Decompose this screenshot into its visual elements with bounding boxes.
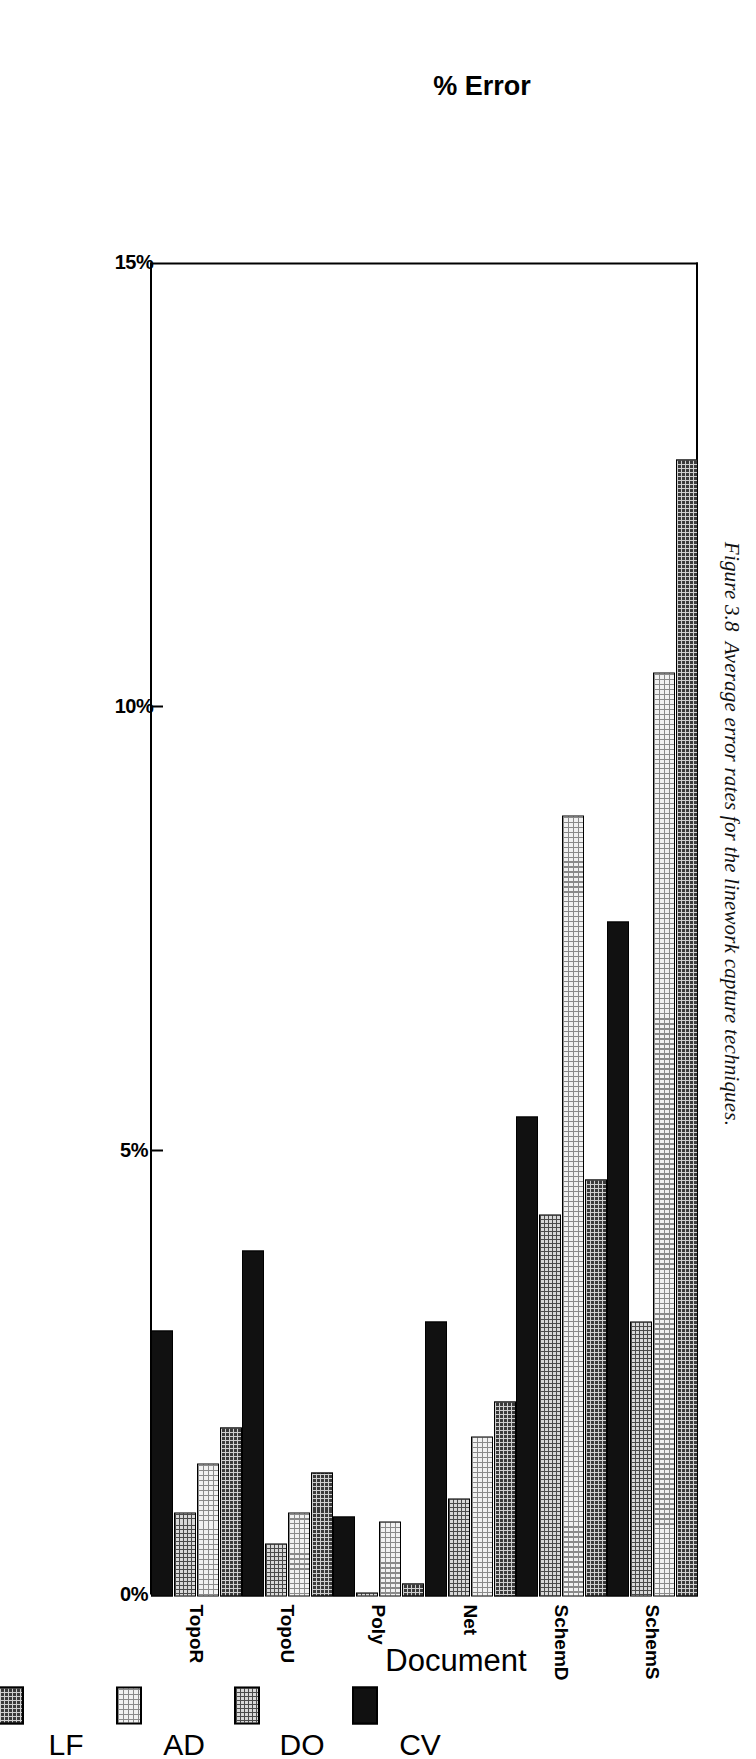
legend-swatch-CV (352, 1686, 378, 1724)
category-label-SchemD: SchemD (550, 1604, 572, 1680)
bar-TopoR-LF (220, 1427, 242, 1596)
chart-legend: CVDOADLF (18, 1686, 378, 1726)
bar-TopoU-AD (288, 1512, 310, 1596)
bar-Net-AD (471, 1436, 493, 1596)
tick-label-15%: 15% (115, 251, 154, 274)
category-label-SchemS: SchemS (641, 1604, 663, 1679)
bar-Net-CV (425, 1321, 447, 1596)
bar-SchemD-CV (516, 1116, 538, 1596)
caption-host: Figure 3.8Average error rates for the li… (706, 0, 756, 1667)
tick-label-10%: 10% (115, 695, 154, 718)
legend-swatch-AD (116, 1686, 142, 1724)
bar-SchemS-LF (676, 459, 698, 1596)
bar-SchemD-AD (562, 815, 584, 1596)
bar-group (332, 264, 424, 1594)
bar-Poly-LF (402, 1583, 424, 1596)
bar-TopoR-CV (151, 1330, 173, 1596)
bar-TopoR-AD (197, 1463, 219, 1596)
legend-label-LF: LF (48, 1727, 83, 1759)
bar-group (150, 264, 242, 1594)
legend-label-CV: CV (399, 1727, 441, 1759)
legend-item-AD: AD (82, 1686, 142, 1726)
caption-text: Average error rates for the linework cap… (720, 641, 744, 1125)
figure-caption: Figure 3.8Average error rates for the li… (719, 541, 744, 1125)
legend-label-AD: AD (163, 1727, 205, 1759)
legend-label-DO: DO (280, 1727, 325, 1759)
legend-item-DO: DO (200, 1686, 260, 1726)
bars-layer (152, 264, 698, 1594)
bar-SchemS-CV (607, 921, 629, 1596)
bar-Poly-AD (379, 1521, 401, 1596)
caption-number: Figure 3.8 (720, 541, 744, 631)
bar-Poly-CV (333, 1516, 355, 1596)
legend-item-CV: CV (318, 1686, 378, 1726)
bar-TopoU-CV (242, 1250, 264, 1596)
tick-label-0%: 0% (120, 1583, 148, 1606)
legend-item-LF: LF (0, 1686, 24, 1726)
plot-area (150, 262, 698, 1594)
legend-swatch-DO (234, 1686, 260, 1724)
tick-label-5%: 5% (120, 1139, 148, 1162)
bar-SchemS-AD (653, 672, 675, 1596)
bar-SchemS-DO (630, 1321, 652, 1596)
category-label-Net: Net (459, 1604, 481, 1635)
bar-TopoR-DO (174, 1512, 196, 1596)
bar-group (606, 264, 698, 1594)
x-axis-title: Document (385, 1642, 526, 1678)
bar-group (241, 264, 333, 1594)
legend-swatch-LF (0, 1686, 24, 1724)
bar-Net-DO (448, 1498, 470, 1596)
bar-TopoU-LF (311, 1472, 333, 1596)
category-label-TopoU: TopoU (276, 1604, 298, 1663)
bar-Net-LF (494, 1401, 516, 1596)
bar-Poly-DO (356, 1592, 378, 1596)
tick-mark-5% (150, 1149, 163, 1151)
category-label-TopoR: TopoR (185, 1604, 207, 1663)
bar-group (515, 264, 607, 1594)
bar-group (424, 264, 516, 1594)
y-axis-title: % Error (433, 71, 531, 102)
bar-SchemD-LF (585, 1179, 607, 1596)
category-label-Poly: Poly (367, 1604, 389, 1644)
bar-SchemD-DO (539, 1214, 561, 1596)
bar-TopoU-DO (265, 1543, 287, 1596)
